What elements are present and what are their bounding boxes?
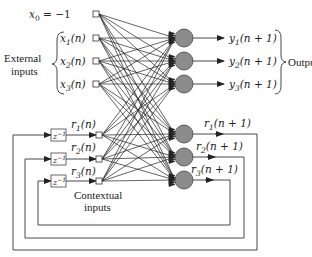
external-inputs-label-line1: External: [4, 52, 41, 64]
output-neuron-icon: [175, 75, 193, 93]
recurrent-network-diagram: z−1 z−1 z−1 x0 = −1 x1(n) x2(n) x3(n) Ex…: [0, 0, 312, 257]
weight-connection: [99, 14, 175, 38]
weight-connection: [99, 14, 175, 61]
context-input-node-icon: [96, 178, 102, 184]
weight-connection: [99, 14, 175, 134]
delay-blocks: z−1 z−1 z−1: [51, 129, 66, 187]
weight-connection: [102, 180, 175, 181]
external-input-label-1: x1(n): [60, 32, 86, 47]
recurrent-output-label-2: r2(n + 1): [196, 140, 243, 155]
hidden-neuron-icon: [175, 125, 193, 143]
weight-connection: [99, 38, 175, 134]
weight-connection: [99, 84, 175, 180]
weight-connection: [99, 84, 175, 157]
external-input-label-2: x2(n): [60, 55, 86, 70]
contextual-inputs-label-line2: inputs: [84, 201, 111, 213]
weight-connection: [102, 159, 175, 180]
contextual-inputs-label-line1: Contextual: [74, 189, 122, 201]
recurrent-output-label-1: r1(n + 1): [204, 117, 251, 132]
context-input-label-3: r3(n): [71, 165, 96, 180]
network-canvas: z−1 z−1 z−1 x0 = −1 x1(n) x2(n) x3(n) Ex…: [0, 0, 312, 257]
feedback-loop-3: [38, 180, 230, 225]
context-input-node-icon: [96, 156, 102, 162]
recurrent-output-label-3: r3(n + 1): [191, 163, 238, 178]
weight-connection: [102, 157, 175, 181]
external-input-label-3: x3(n): [60, 78, 86, 93]
external-input-node-icon: [93, 81, 99, 87]
external-inputs-label-line2: inputs: [11, 65, 38, 77]
bias-input-label: x0 = −1: [29, 8, 71, 23]
context-input-label-2: r2(n): [71, 141, 96, 156]
delay-block-2: z−1: [51, 153, 66, 165]
context-input-node-icon: [96, 132, 102, 138]
output-label-2: y2(n + 1): [228, 55, 277, 70]
output-label-1: y1(n + 1): [228, 32, 277, 47]
weight-connections: [99, 14, 175, 186]
output-neuron-icon: [175, 52, 193, 70]
input-nodes: [93, 11, 102, 184]
output-neuron-icon: [175, 29, 193, 47]
delay-block-3: z−1: [51, 175, 66, 187]
weight-connection: [102, 134, 175, 135]
output-label-3: y3(n + 1): [228, 78, 277, 93]
delay-block-1: z−1: [51, 129, 66, 141]
external-input-node-icon: [93, 58, 99, 64]
context-input-label-1: r1(n): [71, 118, 96, 133]
external-input-node-icon: [93, 35, 99, 41]
bias-input-node-icon: [93, 11, 99, 17]
outputs-label: Outputs: [288, 56, 312, 68]
